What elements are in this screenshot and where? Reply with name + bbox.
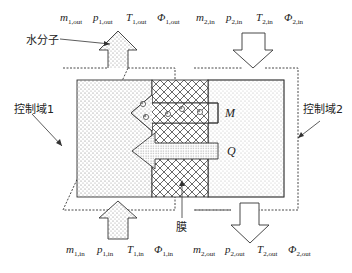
label-t2-in: T2,in <box>256 11 273 26</box>
label-m2-out: m2,out <box>193 243 215 258</box>
water-molecule-leader <box>60 39 110 44</box>
label-p2-out: p2,out <box>225 243 245 258</box>
label-m2-in: m2,in <box>196 11 215 26</box>
label-t2-out: T2,out <box>257 243 277 258</box>
feed-side-region <box>77 80 152 197</box>
label-t1-out: T1,out <box>126 11 146 26</box>
outflow-arrow-1 <box>99 31 137 68</box>
label-p1-in: p1,in <box>97 243 113 258</box>
control-volume-2-label: 控制域2 <box>303 100 343 116</box>
inflow-arrow-2 <box>233 33 273 68</box>
mass-flux-symbol: M <box>225 106 235 121</box>
label-t1-in: T1,in <box>127 243 144 258</box>
outflow-arrow-2 <box>231 203 269 243</box>
permeate-side-region <box>208 80 284 197</box>
membrane <box>152 80 208 197</box>
membrane-label: 膜 <box>176 218 187 234</box>
label-p1-out: p1,out <box>93 11 113 26</box>
heat-flux-symbol: Q <box>227 144 236 159</box>
label-phi2-out: Φ2,out <box>288 243 311 258</box>
label-phi1-in: Φ1,in <box>154 243 173 258</box>
label-phi1-out: Φ1,out <box>157 11 180 26</box>
inflow-arrow-1 <box>99 201 137 239</box>
label-m1-in: m1,in <box>66 243 85 258</box>
label-p2-in: p2,in <box>226 11 242 26</box>
label-phi2-in: Φ2,in <box>284 11 303 26</box>
control-volume-1-leader <box>32 114 62 146</box>
water-molecule-label: 水分子 <box>26 31 59 47</box>
control-volume-1-label: 控制域1 <box>14 100 54 116</box>
label-m1-out: m1,out <box>60 11 82 26</box>
